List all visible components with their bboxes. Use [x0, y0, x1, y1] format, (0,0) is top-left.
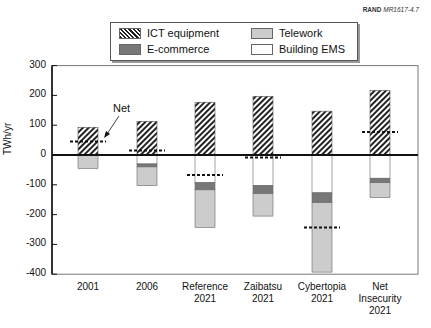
- bar-chart: Net: [0, 0, 431, 328]
- svg-text:Net: Net: [113, 102, 130, 114]
